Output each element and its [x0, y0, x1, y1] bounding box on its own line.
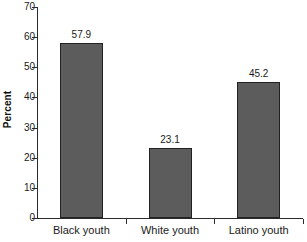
x-axis-line	[37, 218, 303, 219]
x-axis-category-label: Black youth	[36, 224, 126, 237]
bar-value-label: 57.9	[51, 29, 111, 40]
x-axis-category-label: Latino youth	[214, 224, 304, 237]
bar-chart: Percent 010203040506070 57.923.145.2 Bla…	[0, 0, 307, 242]
bar-value-label: 23.1	[140, 134, 200, 145]
bar	[237, 82, 280, 218]
x-axis-category-label: White youth	[125, 224, 215, 237]
y-axis-title-text: Percent	[3, 90, 14, 127]
bar	[149, 148, 192, 218]
bar	[60, 43, 103, 218]
bar-value-label: 45.2	[229, 68, 289, 79]
